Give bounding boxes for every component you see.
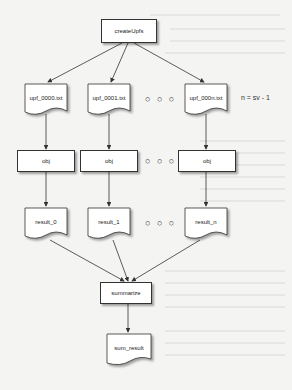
document-shape-icon — [24, 83, 72, 121]
node-obj-1: obj — [80, 150, 138, 172]
note-n: n = sv - 1 — [241, 94, 270, 101]
node-file-n: upf_000n.txt — [184, 83, 228, 117]
node-label: summarize — [111, 290, 140, 296]
ellipsis-objs: ○ ○ ○ — [145, 156, 176, 166]
document-shape-icon — [106, 333, 156, 371]
node-file-0: upf_0000.txt — [24, 83, 68, 117]
node-result-0: result_0 — [24, 207, 68, 241]
ellipsis-results: ○ ○ ○ — [145, 218, 176, 228]
node-summarize: summarize — [100, 282, 152, 304]
node-label: result_n — [195, 219, 216, 225]
node-createupfs: createUpfs — [101, 19, 157, 43]
node-obj-n: obj — [178, 150, 236, 172]
node-label: upf_0001.txt — [92, 95, 125, 101]
node-label: createUpfs — [114, 28, 143, 34]
node-result-n: result_n — [184, 207, 228, 241]
node-sum-result: sum_result — [106, 333, 152, 367]
node-label: obj — [105, 158, 113, 164]
node-label: upf_0000.txt — [29, 95, 62, 101]
node-obj-0: obj — [17, 150, 75, 172]
node-label: obj — [203, 158, 211, 164]
document-shape-icon — [87, 207, 135, 245]
node-label: upf_000n.txt — [189, 95, 222, 101]
node-file-1: upf_0001.txt — [87, 83, 131, 117]
ellipsis-files: ○ ○ ○ — [145, 94, 176, 104]
node-label: sum_result — [114, 345, 143, 351]
node-label: obj — [42, 158, 50, 164]
document-shape-icon — [87, 83, 135, 121]
document-shape-icon — [184, 83, 232, 121]
node-result-1: result_1 — [87, 207, 131, 241]
document-shape-icon — [184, 207, 232, 245]
node-label: result_0 — [35, 219, 56, 225]
node-label: result_1 — [98, 219, 119, 225]
document-shape-icon — [24, 207, 72, 245]
edges — [0, 0, 292, 390]
